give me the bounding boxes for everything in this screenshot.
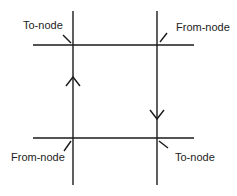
top-left-label: To-node (23, 19, 63, 31)
top-right-label: From-node (176, 21, 230, 33)
top-right-node-pointer (160, 33, 167, 42)
node-link-diagram: To-node From-node From-node To-node (0, 0, 237, 196)
bottom-right-node-pointer (159, 141, 168, 148)
bottom-left-label: From-node (11, 151, 65, 163)
bottom-left-node-pointer (64, 141, 71, 151)
top-left-node-pointer (63, 35, 71, 43)
bottom-right-label: To-node (175, 151, 215, 163)
